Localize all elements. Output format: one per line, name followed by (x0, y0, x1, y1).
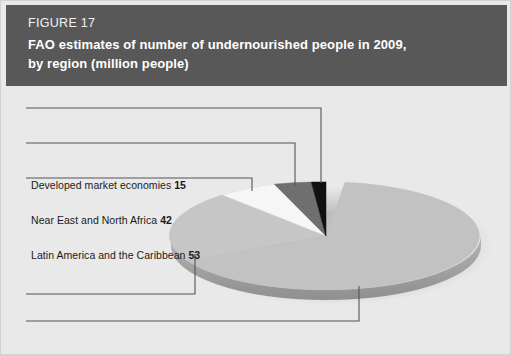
figure-title-line-2: by region (million people) (28, 54, 507, 73)
figure-number: FIGURE 17 (28, 14, 507, 32)
callout-value: 53 (188, 249, 200, 261)
callout-value: 42 (160, 214, 172, 226)
callout-region-label: Developed market economies (31, 179, 171, 191)
callout-value: 15 (174, 179, 186, 191)
chart-plot-area: Developed market economies 15 Near East … (6, 86, 507, 351)
figure-title: FAO estimates of number of undernourishe… (28, 35, 507, 73)
callout-region-label: Near East and North Africa (31, 214, 157, 226)
callout-region-label: Latin America and the Caribbean (31, 249, 185, 261)
callout-latin-america-and-the-caribbean: Latin America and the Caribbean 53 (31, 249, 200, 261)
leader-line-developed (26, 108, 321, 183)
figure-title-line-1: FAO estimates of number of undernourishe… (28, 37, 406, 52)
callout-developed-market-economies: Developed market economies 15 (31, 179, 186, 191)
figure-header: FIGURE 17 FAO estimates of number of und… (6, 5, 507, 86)
callout-near-east-and-north-africa: Near East and North Africa 42 (31, 214, 172, 226)
figure-panel: FIGURE 17 FAO estimates of number of und… (0, 0, 511, 355)
